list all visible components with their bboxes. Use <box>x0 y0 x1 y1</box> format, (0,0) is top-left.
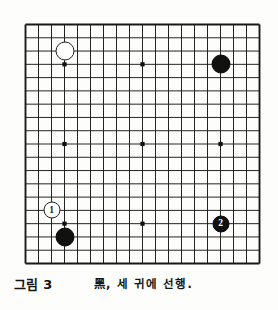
go-diagram-figure: 12 그림 3 黑, 세 귀에 선행. <box>0 0 278 310</box>
figure-number: 그림 3 <box>14 274 52 293</box>
figure-caption-text: 黑, 세 귀에 선행. <box>94 275 193 291</box>
figure-caption: 그림 3 黑, 세 귀에 선행. <box>0 274 278 298</box>
stone-black-upper-right[interactable] <box>211 55 230 74</box>
stone-move-number: 1 <box>49 206 54 216</box>
stone-black-lower-left[interactable] <box>55 227 74 246</box>
go-board[interactable]: 12 <box>19 18 266 270</box>
stone-move-number: 2 <box>218 219 223 229</box>
stone-white-move-1[interactable]: 1 <box>43 202 60 219</box>
stone-white-upper-left[interactable] <box>55 42 74 61</box>
stone-black-move-2[interactable]: 2 <box>212 215 229 232</box>
